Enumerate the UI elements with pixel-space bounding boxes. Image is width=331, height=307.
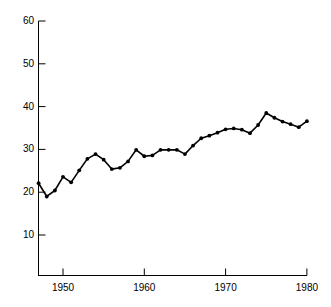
data-point	[159, 148, 163, 152]
data-point	[305, 119, 309, 123]
line-chart: 102030405060 1950196019701980	[0, 0, 331, 307]
data-point	[61, 175, 65, 179]
y-tick-label: 30	[8, 144, 34, 154]
data-point-markers	[37, 111, 309, 198]
data-point	[289, 122, 293, 126]
data-point	[118, 166, 122, 170]
y-tick-label: 60	[8, 16, 34, 26]
data-point	[183, 152, 187, 156]
data-point	[240, 128, 244, 132]
data-point	[151, 153, 155, 157]
data-point	[216, 131, 220, 135]
data-point	[297, 125, 301, 129]
y-axis-ticks	[39, 21, 46, 235]
data-point	[94, 152, 98, 156]
data-point	[134, 148, 138, 152]
data-point	[85, 157, 89, 161]
data-line	[39, 113, 307, 196]
y-tick-label: 40	[8, 102, 34, 112]
chart-canvas	[0, 0, 331, 307]
y-tick-label: 10	[8, 230, 34, 240]
data-point	[126, 159, 130, 163]
data-point	[69, 180, 73, 184]
x-tick-label: 1980	[287, 283, 327, 293]
x-tick-label: 1970	[206, 283, 246, 293]
data-point	[45, 195, 49, 199]
data-point	[281, 120, 285, 124]
data-point	[207, 134, 211, 138]
data-point	[199, 136, 203, 140]
data-point	[232, 127, 236, 131]
data-point	[77, 168, 81, 172]
data-point	[224, 127, 228, 131]
data-point	[191, 144, 195, 148]
data-point	[175, 148, 179, 152]
y-tick-label: 50	[8, 59, 34, 69]
y-tick-label: 20	[8, 187, 34, 197]
data-point	[53, 189, 57, 193]
data-point	[37, 181, 41, 185]
x-axis-ticks	[63, 269, 307, 276]
data-point	[272, 116, 276, 120]
data-point	[248, 131, 252, 135]
data-point	[167, 148, 171, 152]
data-point	[264, 111, 268, 115]
data-point	[256, 123, 260, 127]
x-tick-label: 1960	[124, 283, 164, 293]
data-point	[142, 154, 146, 158]
x-tick-label: 1950	[43, 283, 83, 293]
data-point	[102, 158, 106, 162]
data-point	[110, 167, 114, 171]
